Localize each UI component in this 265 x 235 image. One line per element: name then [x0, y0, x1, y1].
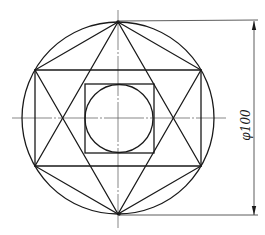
technical-drawing: φ100	[0, 0, 265, 235]
diameter-label: φ100	[239, 109, 253, 141]
dimension-extension-top	[118, 20, 258, 21]
arrow-up-icon	[252, 21, 256, 30]
inner-circle	[85, 85, 153, 153]
arrow-down-icon	[252, 206, 256, 215]
